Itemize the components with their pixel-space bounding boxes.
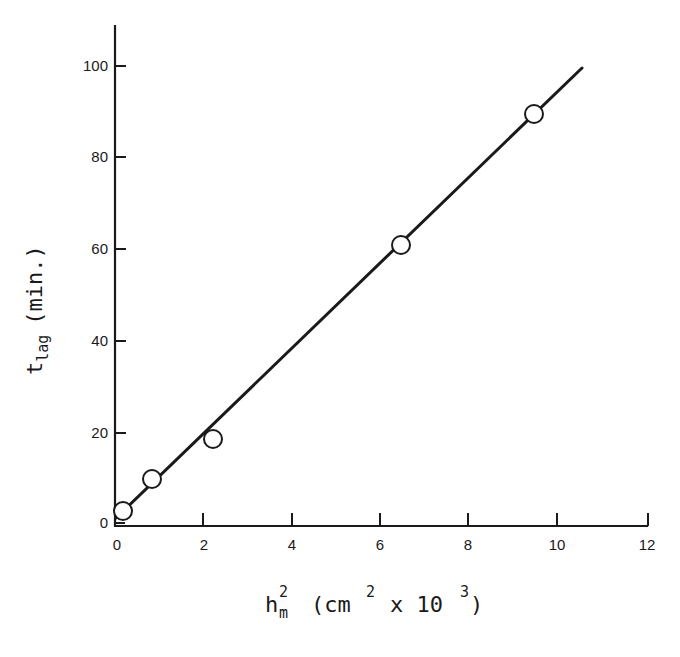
x-label-units-a: (cm <box>311 592 351 617</box>
x-tick-label: 6 <box>376 536 384 553</box>
y-tick-label: 80 <box>91 148 108 165</box>
y-tick-label: 60 <box>91 240 108 257</box>
svg-text:h: h <box>265 592 278 617</box>
x-label-units-sup2: 3 <box>460 583 469 601</box>
data-point <box>525 105 543 123</box>
x-label-sub: m <box>279 604 288 622</box>
x-tick-label: 10 <box>549 536 566 553</box>
data-point <box>143 470 161 488</box>
data-point <box>114 502 132 520</box>
x-tick-label: 12 <box>639 536 656 553</box>
y-axis-label: tlag(min.) <box>22 245 52 375</box>
data-point <box>392 236 410 254</box>
x-label-units-b: x 10 <box>390 592 443 617</box>
y-label-sub: lag <box>34 335 52 362</box>
y-tick-labels: 0 20 40 60 80 100 <box>83 57 108 531</box>
x-ticks <box>203 513 648 526</box>
svg-text:tlag(min.): tlag(min.) <box>22 245 52 375</box>
fit-line <box>116 68 582 518</box>
y-ticks <box>115 66 126 523</box>
chart: 0 20 40 60 80 100 0 2 4 6 8 10 12 tlag(m… <box>0 0 680 657</box>
y-label-main: t <box>22 362 47 375</box>
x-tick-label: 4 <box>288 536 296 553</box>
x-label-sup: 2 <box>279 583 288 601</box>
x-axis-label: h 2 m (cm 2 x 10 3 ) <box>265 583 483 622</box>
x-label-main: h <box>265 592 278 617</box>
x-tick-labels: 0 2 4 6 8 10 12 <box>113 536 656 553</box>
x-label-units-close: ) <box>470 592 483 617</box>
y-label-units: (min.) <box>22 245 47 324</box>
x-tick-label: 8 <box>464 536 472 553</box>
y-tick-label: 0 <box>100 514 108 531</box>
x-tick-label: 0 <box>113 536 121 553</box>
y-tick-label: 20 <box>91 424 108 441</box>
y-tick-label: 100 <box>83 57 108 74</box>
axes <box>114 25 648 527</box>
data-point <box>204 430 222 448</box>
x-label-units-sup: 2 <box>366 583 375 601</box>
y-tick-label: 40 <box>91 332 108 349</box>
x-tick-label: 2 <box>200 536 208 553</box>
